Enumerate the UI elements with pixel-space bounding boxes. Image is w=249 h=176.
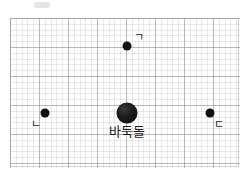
- stone-label-nieun: ㄴ: [31, 119, 41, 130]
- stone-giyeok[interactable]: [123, 42, 132, 51]
- stone-center-go-stone[interactable]: [117, 103, 138, 124]
- scan-smudge-artifact: [34, 2, 50, 8]
- stone-label-giyeok: ㄱ: [134, 32, 144, 43]
- figure-canvas: ㄱ ㄴ 바둑돌 ㄷ: [0, 0, 249, 176]
- stone-digeut[interactable]: [206, 109, 215, 118]
- stone-label-center: 바둑돌: [109, 125, 145, 138]
- graph-paper-grid: [10, 18, 240, 168]
- stone-nieun[interactable]: [41, 109, 50, 118]
- stone-label-digeut: ㄷ: [214, 119, 224, 130]
